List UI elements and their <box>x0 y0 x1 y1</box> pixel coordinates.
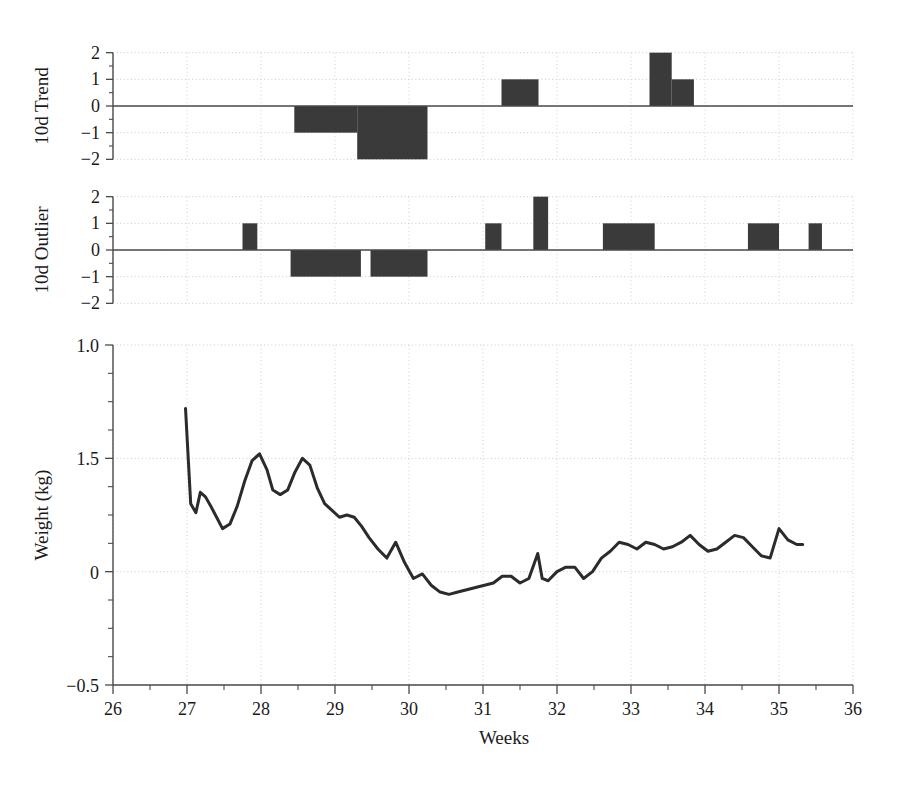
y-axis-label-weight: Weight (kg) <box>31 470 53 561</box>
bar-trend <box>294 106 357 133</box>
x-ticklabel: 33 <box>622 699 640 719</box>
bar-outlier <box>603 223 655 250</box>
x-ticklabel: 35 <box>770 699 788 719</box>
y-ticklabel-weight: 0 <box>90 563 99 583</box>
bar-outlier <box>748 223 779 250</box>
y-axis-label-trend: 10d Trend <box>31 67 52 145</box>
x-ticklabel: 34 <box>696 699 714 719</box>
y-ticklabel-trend: 1 <box>91 69 100 89</box>
x-ticklabel: 26 <box>104 699 122 719</box>
y-ticklabel-trend: −1 <box>81 123 100 143</box>
x-ticklabel: 29 <box>326 699 344 719</box>
bar-outlier <box>485 223 501 250</box>
y-ticklabel-weight: 1.0 <box>77 336 100 356</box>
y-ticklabel-outlier: −1 <box>81 267 100 287</box>
bar-trend <box>650 53 672 106</box>
y-ticklabel-outlier: 2 <box>91 187 100 207</box>
stacked-panel-chart: 210−1−210d Trend 210−1−210d Outlier 1.01… <box>0 0 908 787</box>
y-ticklabel-outlier: 0 <box>91 240 100 260</box>
y-ticklabel-outlier: 1 <box>91 213 100 233</box>
bar-outlier <box>371 250 428 277</box>
bar-trend <box>357 106 427 159</box>
y-ticklabel-trend: −2 <box>81 149 100 169</box>
y-ticklabel-outlier: −2 <box>81 293 100 313</box>
y-ticklabel-weight: 1.5 <box>77 449 100 469</box>
figure-background <box>0 0 908 787</box>
x-ticklabel: 32 <box>548 699 566 719</box>
bar-trend <box>672 79 694 106</box>
x-ticklabel: 27 <box>178 699 196 719</box>
figure-root: 210−1−210d Trend 210−1−210d Outlier 1.01… <box>0 0 908 787</box>
bar-trend <box>502 79 539 106</box>
x-ticklabel: 31 <box>474 699 492 719</box>
y-ticklabel-weight: −0.5 <box>66 676 99 696</box>
y-axis-label-outlier: 10d Outlier <box>31 206 52 294</box>
x-ticklabel: 28 <box>252 699 270 719</box>
y-ticklabel-trend: 0 <box>91 96 100 116</box>
x-ticklabel: 30 <box>400 699 418 719</box>
bar-outlier <box>291 250 361 277</box>
bar-outlier <box>243 223 258 250</box>
x-ticklabel: 36 <box>844 699 862 719</box>
y-ticklabel-trend: 2 <box>91 43 100 63</box>
x-axis-label: Weeks <box>479 727 529 748</box>
bar-outlier <box>809 223 822 250</box>
bar-outlier <box>533 197 548 250</box>
